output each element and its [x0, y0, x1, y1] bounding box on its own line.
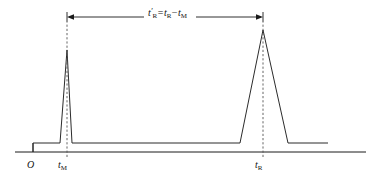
chart-canvas — [0, 0, 379, 183]
arrow-head-left-icon — [67, 14, 74, 20]
detector-signal-trace — [33, 30, 328, 152]
arrow-head-right-icon — [256, 14, 263, 20]
origin-label: O — [27, 160, 34, 170]
chromatogram-figure: t′R=tR−tM O tM tR — [0, 0, 379, 183]
formula-subscript-m: M — [181, 12, 187, 20]
formula-equals-sign: = — [157, 7, 164, 18]
tr-subscript: R — [258, 164, 263, 172]
x-tick-label-tm: tM — [58, 160, 67, 172]
tm-subscript: M — [61, 164, 67, 172]
x-tick-label-tr: tR — [255, 160, 262, 172]
formula-minus-sign: − — [171, 7, 178, 18]
measure-formula-label: t′R=tR−tM — [146, 8, 189, 20]
